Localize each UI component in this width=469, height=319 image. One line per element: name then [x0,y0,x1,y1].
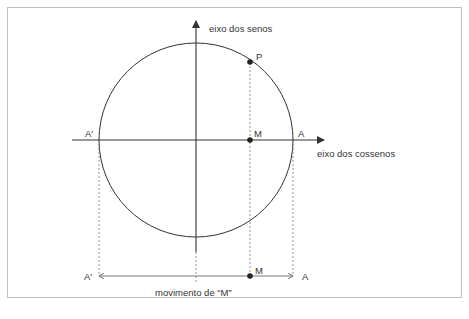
label-A: A [298,128,305,139]
label-P: P [256,51,262,62]
label-M-bottom: M [255,265,263,276]
label-A-prime-bottom: A' [84,271,92,282]
point-M-bottom [247,273,253,279]
label-M: M [254,128,262,139]
cosine-axis-label: eixo dos cossenos [317,148,395,159]
sine-axis-label: eixo dos senos [209,23,273,34]
point-M [247,137,253,143]
movement-label: movimento de “M” [155,287,232,298]
label-A-prime: A' [85,128,93,139]
point-P [247,59,253,65]
label-A-bottom: A [302,271,309,282]
unit-circle-diagram: eixo dos senos eixo dos cossenos P M A A… [0,0,469,319]
